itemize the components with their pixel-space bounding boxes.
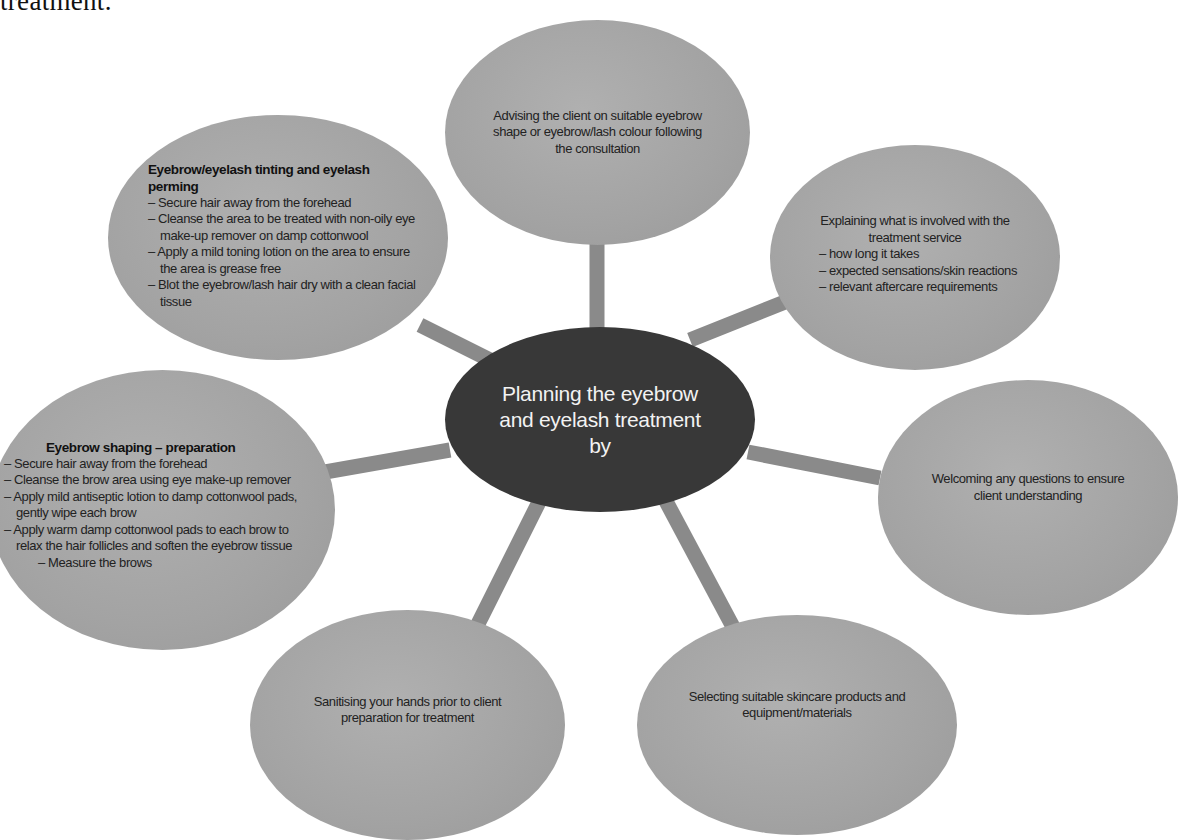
list-item: – Apply warm damp cottonwool pads to eac… (4, 522, 314, 555)
list-item: – Apply mild antiseptic lotion to damp c… (4, 489, 314, 522)
node-eyebrow-shaping-text: Eyebrow shaping – preparation – Secure h… (4, 439, 314, 572)
node-welcoming-text: Welcoming any questions to ensure client… (932, 471, 1125, 504)
node-sanitising: Sanitising your hands prior to client pr… (250, 610, 565, 840)
list-item: – Blot the eyebrow/lash hair dry with a … (148, 277, 418, 310)
tinting-heading: Eyebrow/eyelash tinting and eyelash perm… (148, 161, 418, 195)
node-explaining-text: Explaining what is involved with the tre… (813, 213, 1017, 296)
center-node: Planning the eyebrow and eyelash treatme… (445, 327, 755, 512)
list-item: – Secure hair away from the forehead (148, 195, 418, 212)
node-explaining: Explaining what is involved with the tre… (770, 145, 1060, 370)
node-eyebrow-shaping: Eyebrow shaping – preparation – Secure h… (0, 370, 335, 650)
connector-selecting (660, 490, 740, 640)
node-sanitising-text: Sanitising your hands prior to client pr… (314, 694, 502, 727)
connector-shaping (325, 450, 450, 472)
node-selecting: Selecting suitable skincare products and… (637, 615, 957, 835)
center-node-text: Planning the eyebrow and eyelash treatme… (499, 381, 701, 459)
node-welcoming: Welcoming any questions to ensure client… (878, 380, 1178, 615)
list-item: – Cleanse the area to be treated with no… (148, 211, 418, 244)
connector-welcoming (748, 452, 880, 478)
list-item: – Measure the brows (4, 555, 314, 572)
node-selecting-text: Selecting suitable skincare products and… (689, 689, 906, 722)
connector-sanitising (470, 500, 540, 640)
list-item: – Secure hair away from the forehead (4, 456, 314, 473)
node-tinting: Eyebrow/eyelash tinting and eyelash perm… (108, 115, 448, 360)
node-tinting-text: Eyebrow/eyelash tinting and eyelash perm… (148, 161, 418, 311)
connector-explaining (690, 300, 790, 340)
node-advising-text: Advising the client on suitable eyebrow … (493, 108, 702, 158)
connector-tinting (420, 325, 490, 360)
list-item: – Cleanse the brow area using eye make-u… (4, 472, 314, 489)
eyebrow-shaping-heading: Eyebrow shaping – preparation (4, 439, 314, 456)
node-advising: Advising the client on suitable eyebrow … (445, 20, 750, 245)
list-item: – Apply a mild toning lotion on the area… (148, 244, 418, 277)
